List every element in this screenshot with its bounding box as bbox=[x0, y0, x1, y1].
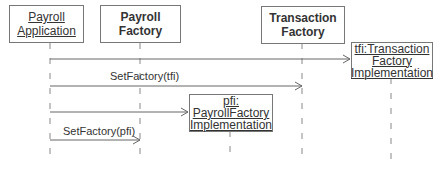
object-label-line: Transaction bbox=[269, 11, 336, 25]
object-label-line: Payroll bbox=[120, 10, 160, 24]
object-label-line: tfi:Transaction bbox=[355, 43, 430, 55]
object-transaction-factory: Transaction Factory bbox=[261, 6, 345, 44]
message-label-setfactory-pfi: SetFactory(pfi) bbox=[63, 125, 135, 137]
object-label-line: Factory bbox=[281, 25, 324, 39]
object-label-line: Application bbox=[17, 24, 76, 38]
object-label-line: Factory bbox=[119, 24, 162, 38]
object-pfi: pfi: PayrollFactory Implementation bbox=[189, 94, 273, 132]
object-label-line: Implementation bbox=[190, 119, 272, 131]
object-label-line: Payroll bbox=[28, 10, 65, 24]
object-payroll-application: Payroll Application bbox=[9, 5, 84, 43]
object-payroll-factory: Payroll Factory bbox=[100, 5, 181, 43]
object-tfi: tfi:Transaction Factory Implementation bbox=[351, 42, 433, 79]
object-label-line: Implementation bbox=[351, 67, 433, 79]
object-label-line: Factory bbox=[372, 55, 412, 67]
message-label-setfactory-tfi: SetFactory(tfi) bbox=[110, 70, 179, 82]
